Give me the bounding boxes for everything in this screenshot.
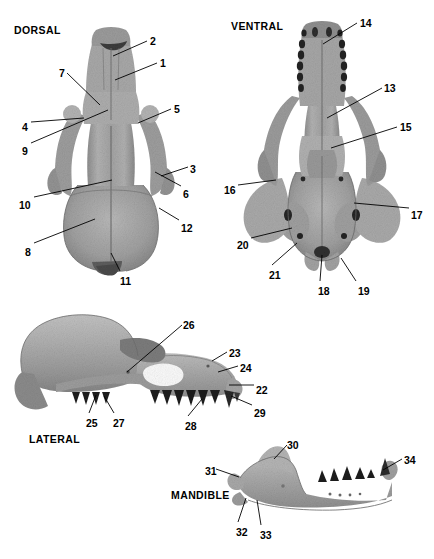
callout-dorsal-4: 4 xyxy=(22,122,28,133)
callout-ventral-15: 15 xyxy=(400,122,412,133)
callout-dorsal-12: 12 xyxy=(181,223,193,234)
callout-dorsal-9: 9 xyxy=(22,146,28,157)
callout-dorsal-11: 11 xyxy=(120,276,131,287)
callout-ventral-17: 17 xyxy=(411,210,423,221)
callout-ventral-20: 20 xyxy=(237,240,249,251)
leader-line-ventral-19 xyxy=(341,258,356,281)
callout-lateral-27: 27 xyxy=(113,418,125,429)
callout-lateral-26: 26 xyxy=(183,320,195,331)
callout-lateral-29: 29 xyxy=(254,408,266,419)
callout-ventral-19: 19 xyxy=(358,286,370,297)
callout-mandible-30: 30 xyxy=(287,440,299,451)
callout-mandible-32: 32 xyxy=(236,527,248,538)
callout-lateral-25: 25 xyxy=(86,418,98,429)
callout-dorsal-1: 1 xyxy=(160,58,166,69)
callout-ventral-13: 13 xyxy=(384,83,396,94)
callout-dorsal-5: 5 xyxy=(174,104,180,115)
leader-line-mandible-31 xyxy=(216,469,239,477)
callout-dorsal-3: 3 xyxy=(190,164,196,175)
callout-lateral-22: 22 xyxy=(256,385,268,396)
callout-lateral-23: 23 xyxy=(229,348,241,359)
view-title-ventral: VENTRAL xyxy=(231,20,283,32)
leader-line-lateral-27 xyxy=(104,396,114,413)
callout-dorsal-7: 7 xyxy=(59,68,65,79)
ventral-skull-image xyxy=(244,21,401,271)
callout-mandible-34: 34 xyxy=(404,455,416,466)
callout-lateral-24: 24 xyxy=(240,363,252,374)
view-title-dorsal: DORSAL xyxy=(14,24,61,36)
callout-dorsal-2: 2 xyxy=(150,36,156,47)
leader-line-lateral-29 xyxy=(231,396,252,405)
callout-ventral-16: 16 xyxy=(224,185,236,196)
callout-ventral-18: 18 xyxy=(318,286,330,297)
callout-dorsal-6: 6 xyxy=(183,189,189,200)
leader-line-ventral-21 xyxy=(272,243,297,265)
skull-illustrations xyxy=(0,0,434,559)
mandible-image xyxy=(227,446,397,510)
anatomy-figure: DORSAL VENTRAL LATERAL MANDIBLE 21754936… xyxy=(0,0,434,559)
callout-dorsal-8: 8 xyxy=(25,247,31,258)
leader-line-lateral-23 xyxy=(212,352,227,361)
callout-ventral-21: 21 xyxy=(269,270,281,281)
view-title-lateral: LATERAL xyxy=(29,433,80,445)
callout-mandible-31: 31 xyxy=(205,466,217,477)
leader-line-lateral-25 xyxy=(89,395,96,413)
callout-ventral-14: 14 xyxy=(360,18,372,29)
callout-lateral-28: 28 xyxy=(185,421,197,432)
callout-mandible-33: 33 xyxy=(260,530,272,541)
callout-dorsal-10: 10 xyxy=(19,200,31,211)
view-title-mandible: MANDIBLE xyxy=(171,489,230,501)
leader-line-dorsal-12 xyxy=(159,208,179,220)
dorsal-skull-image xyxy=(47,27,174,276)
lateral-skull-image xyxy=(15,315,243,410)
